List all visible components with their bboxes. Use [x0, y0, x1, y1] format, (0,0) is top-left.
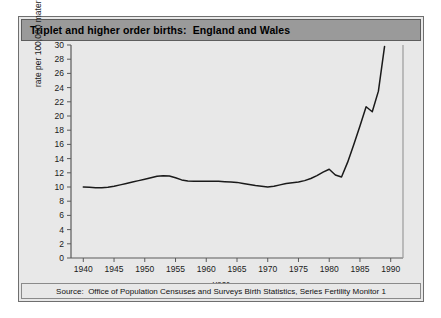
y-tick-label: 16 — [55, 139, 65, 149]
x-tick-label: 1990 — [381, 264, 400, 274]
y-tick-label: 10 — [55, 182, 65, 192]
x-axis-ticks: 1940194519501955196019651970197519801985… — [74, 258, 401, 274]
x-tick-label: 1965 — [228, 264, 247, 274]
y-tick-label: 30 — [55, 40, 65, 50]
y-axis-ticks: 024681012141618202224262830 — [55, 40, 71, 263]
y-axis-label: rate per 100,000 maternities — [33, 0, 43, 87]
y-tick-label: 28 — [55, 54, 65, 64]
y-tick-label: 8 — [59, 196, 64, 206]
axis-lines — [71, 45, 403, 258]
line-chart: 024681012141618202224262830 194019451950… — [19, 17, 425, 303]
y-tick-label: 26 — [55, 68, 65, 78]
y-tick-label: 6 — [59, 210, 64, 220]
x-tick-label: 1985 — [351, 264, 370, 274]
x-tick-label: 1940 — [74, 264, 93, 274]
x-tick-label: 1945 — [105, 264, 124, 274]
data-series-line — [83, 46, 384, 187]
y-tick-label: 2 — [59, 239, 64, 249]
source-footer: Source: Office of Population Censuses an… — [21, 283, 421, 299]
source-text: Source: Office of Population Censuses an… — [56, 287, 386, 296]
y-tick-label: 12 — [55, 168, 65, 178]
chart-figure: Triplet and higher order births: England… — [18, 16, 424, 302]
y-tick-label: 0 — [59, 253, 64, 263]
x-tick-label: 1955 — [166, 264, 185, 274]
y-tick-label: 14 — [55, 154, 65, 164]
x-tick-label: 1975 — [289, 264, 308, 274]
y-tick-label: 4 — [59, 225, 64, 235]
x-tick-label: 1970 — [258, 264, 277, 274]
y-tick-label: 20 — [55, 111, 65, 121]
y-tick-label: 18 — [55, 125, 65, 135]
x-tick-label: 1960 — [197, 264, 216, 274]
x-tick-label: 1950 — [135, 264, 154, 274]
x-tick-label: 1980 — [320, 264, 339, 274]
y-tick-label: 24 — [55, 83, 65, 93]
y-tick-label: 22 — [55, 97, 65, 107]
